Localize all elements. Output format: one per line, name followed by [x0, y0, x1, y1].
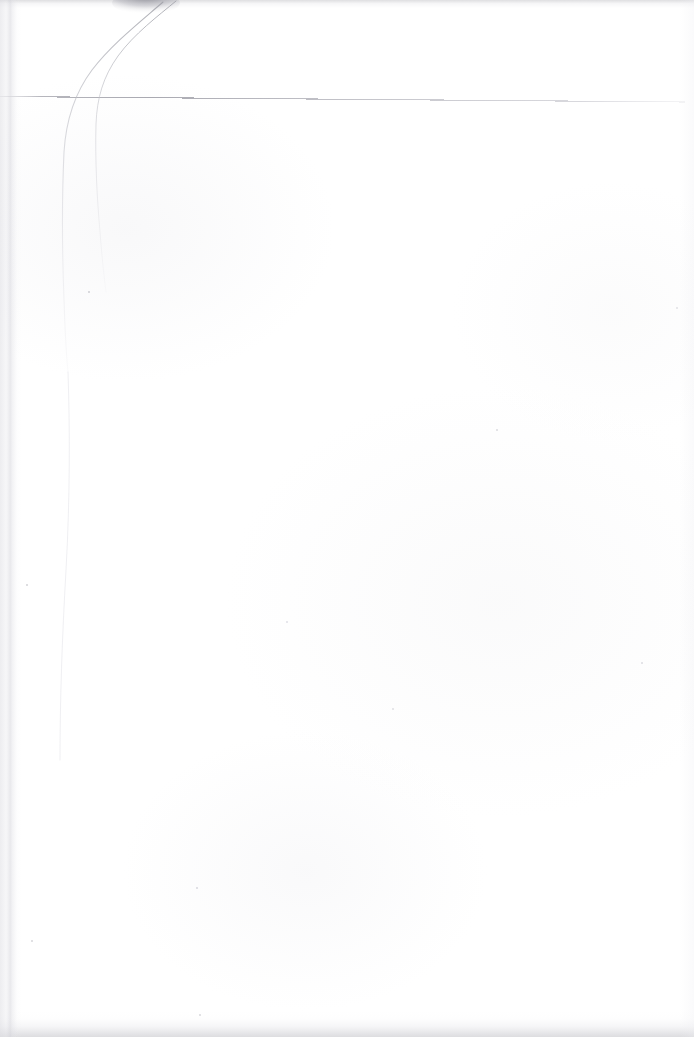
dust-speck [31, 940, 33, 942]
page-marks-layer [0, 0, 694, 1037]
dust-speck [88, 291, 90, 293]
top-edge-smudge [112, 0, 180, 14]
dust-speck [641, 662, 643, 664]
dust-speck [199, 1014, 201, 1016]
scan-edge-shadow-bottom [0, 1011, 694, 1037]
dust-speck [392, 708, 394, 710]
dust-speck [676, 307, 678, 309]
pencil-stroke-right [96, 1, 176, 292]
pencil-stroke-left [63, 2, 164, 372]
scan-edge-shadow-left [0, 0, 22, 1037]
pencil-stroke-tail [60, 372, 69, 760]
scan-edge-shadow-right [680, 0, 694, 1037]
dust-speck [196, 887, 198, 889]
scanned-page [0, 0, 694, 1037]
horizontal-rule-line [0, 97, 685, 103]
dust-speck [496, 429, 498, 431]
dust-speck [286, 621, 288, 623]
left-margin-crease [6, 0, 17, 1037]
dust-speck [26, 584, 28, 586]
scan-edge-shadow-top [0, 0, 694, 8]
